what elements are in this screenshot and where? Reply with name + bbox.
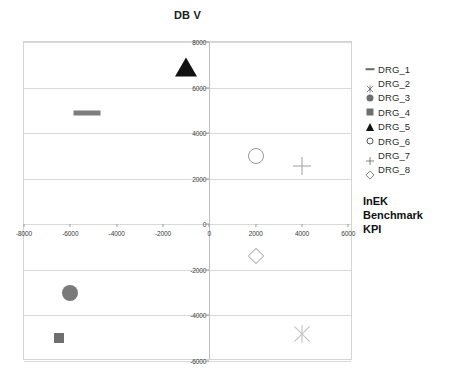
legend-item-label: DRG_1 <box>378 64 410 75</box>
x-axis-tick-label: -8000 <box>16 230 32 237</box>
y-axis-tick-mark <box>206 178 209 179</box>
y-axis-tick-label: 0 <box>187 221 206 228</box>
legend-item-drg_2[interactable]: DRG_2 <box>363 76 451 90</box>
x-axis-tick-mark <box>24 224 25 227</box>
legend-item-label: DRG_7 <box>378 150 410 161</box>
x-axis-tick-mark <box>209 224 210 227</box>
legend-marker-circle-open-icon <box>363 135 376 148</box>
data-point-drg_8 <box>247 248 264 265</box>
legend-item-label: DRG_8 <box>378 164 410 175</box>
y-axis-tick-mark <box>206 133 209 134</box>
legend-item-drg_7[interactable]: DRG_7 <box>363 148 451 162</box>
legend-item-label: DRG_4 <box>378 107 410 118</box>
x-axis-caption-line1: InEK <box>363 194 451 208</box>
legend-item-label: DRG_5 <box>378 121 410 132</box>
legend-item-label: DRG_3 <box>378 92 410 103</box>
legend-item-label: DRG_6 <box>378 136 410 147</box>
plot-area: -6000-4000-200002000400060008000-8000-60… <box>23 41 352 360</box>
y-axis-tick-label: -2000 <box>187 266 206 273</box>
x-axis-tick-mark <box>70 224 71 227</box>
y-axis-tick-label: 6000 <box>187 84 206 91</box>
legend-marker-square-filled-icon <box>363 106 376 119</box>
x-axis-tick-label: 0 <box>208 230 212 237</box>
data-point-drg_4 <box>54 333 64 343</box>
x-axis-caption: InEK Benchmark KPI <box>363 194 451 236</box>
y-axis-tick-mark <box>206 87 209 88</box>
legend-marker-x-cross-icon <box>363 77 376 90</box>
y-axis-tick-mark <box>206 361 209 362</box>
legend-item-drg_4[interactable]: DRG_4 <box>363 105 451 119</box>
legend-marker-triangle-filled-icon <box>363 120 376 133</box>
x-axis-tick-label: -6000 <box>62 230 78 237</box>
y-axis-tick-label: 2000 <box>187 175 206 182</box>
data-point-drg_5 <box>175 58 197 77</box>
y-axis-tick-mark <box>206 269 209 270</box>
x-axis-tick-mark <box>348 224 349 227</box>
legend-marker-diamond-open-icon <box>363 163 376 176</box>
legend-marker-plus-icon <box>363 149 376 162</box>
y-axis-tick-mark <box>206 42 209 43</box>
x-axis-tick-mark <box>116 224 117 227</box>
legend-item-label: DRG_2 <box>378 78 410 89</box>
x-axis-tick-label: -2000 <box>155 230 171 237</box>
legend-marker-circle-filled-icon <box>363 91 376 104</box>
y-axis-tick-mark <box>206 315 209 316</box>
legend-item-drg_3[interactable]: DRG_3 <box>363 91 451 105</box>
plot-canvas: -6000-4000-200002000400060008000-8000-60… <box>24 42 351 359</box>
chart-title: DB V <box>0 9 375 21</box>
legend-item-drg_5[interactable]: DRG_5 <box>363 120 451 134</box>
chart-root: DB V -6000-4000-200002000400060008000-80… <box>0 0 451 376</box>
y-axis-tick-label: -4000 <box>187 312 206 319</box>
data-point-drg_7 <box>292 156 312 176</box>
x-axis-tick-label: 2000 <box>249 230 263 237</box>
legend: DRG_1DRG_2DRG_3DRG_4DRG_5DRG_6DRG_7DRG_8 <box>363 62 451 177</box>
x-axis-tick-mark <box>163 224 164 227</box>
x-axis-caption-line3: KPI <box>363 222 451 236</box>
y-axis-tick-label: 8000 <box>187 39 206 46</box>
legend-item-drg_6[interactable]: DRG_6 <box>363 134 451 148</box>
x-axis-tick-label: -4000 <box>109 230 125 237</box>
x-axis-tick-mark <box>255 224 256 227</box>
x-axis-tick-label: 4000 <box>295 230 309 237</box>
x-axis-caption-line2: Benchmark <box>363 208 451 222</box>
y-axis-line <box>209 42 210 359</box>
data-point-drg_6 <box>248 148 264 164</box>
x-axis-tick-label: 6000 <box>341 230 355 237</box>
x-axis-tick-mark <box>302 224 303 227</box>
legend-marker-dash-icon <box>363 63 376 76</box>
data-point-drg_1 <box>73 110 100 115</box>
y-axis-tick-label: -6000 <box>187 358 206 365</box>
legend-item-drg_1[interactable]: DRG_1 <box>363 62 451 76</box>
legend-item-drg_8[interactable]: DRG_8 <box>363 163 451 177</box>
y-axis-tick-label: 4000 <box>187 130 206 137</box>
data-point-drg_3 <box>62 285 78 301</box>
data-point-drg_2 <box>291 323 313 345</box>
